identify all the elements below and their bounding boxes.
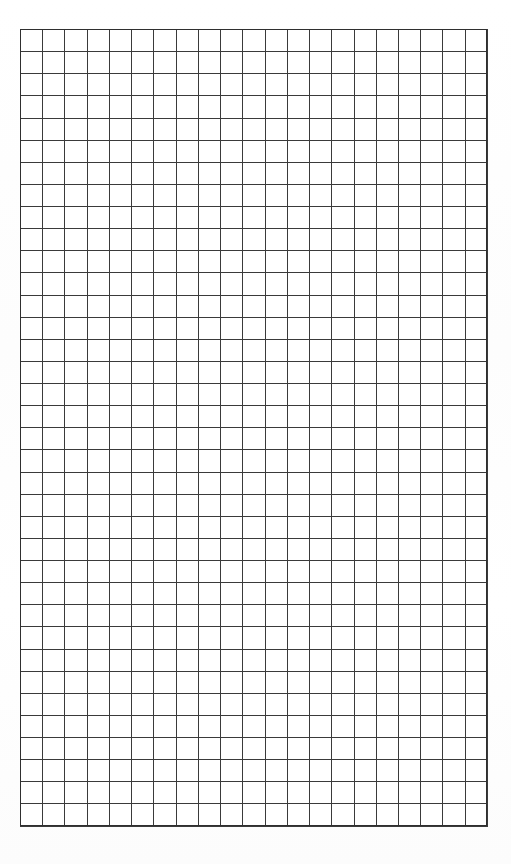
grid-cell[interactable] <box>421 428 443 450</box>
grid-cell[interactable] <box>421 693 443 715</box>
grid-cell[interactable] <box>354 516 376 538</box>
grid-cell[interactable] <box>132 715 154 737</box>
grid-cell[interactable] <box>198 140 220 162</box>
grid-cell[interactable] <box>154 693 176 715</box>
grid-cell[interactable] <box>43 583 65 605</box>
grid-cell[interactable] <box>109 339 131 361</box>
grid-cell[interactable] <box>465 140 487 162</box>
grid-cell[interactable] <box>154 273 176 295</box>
grid-cell[interactable] <box>265 627 287 649</box>
grid-cell[interactable] <box>176 361 198 383</box>
grid-cell[interactable] <box>287 118 309 140</box>
grid-cell[interactable] <box>154 561 176 583</box>
grid-cell[interactable] <box>443 583 465 605</box>
grid-cell[interactable] <box>332 760 354 782</box>
grid-cell[interactable] <box>354 273 376 295</box>
grid-cell[interactable] <box>221 74 243 96</box>
grid-cell[interactable] <box>43 339 65 361</box>
grid-cell[interactable] <box>154 52 176 74</box>
grid-cell[interactable] <box>287 583 309 605</box>
grid-cell[interactable] <box>176 494 198 516</box>
grid-cell[interactable] <box>243 339 265 361</box>
grid-cell[interactable] <box>287 760 309 782</box>
grid-cell[interactable] <box>287 605 309 627</box>
grid-cell[interactable] <box>221 649 243 671</box>
grid-cell[interactable] <box>265 52 287 74</box>
grid-cell[interactable] <box>265 317 287 339</box>
grid-cell[interactable] <box>354 472 376 494</box>
grid-cell[interactable] <box>21 804 43 826</box>
grid-cell[interactable] <box>421 406 443 428</box>
grid-cell[interactable] <box>376 494 398 516</box>
grid-cell[interactable] <box>221 317 243 339</box>
grid-cell[interactable] <box>21 184 43 206</box>
grid-cell[interactable] <box>132 406 154 428</box>
grid-cell[interactable] <box>443 384 465 406</box>
grid-cell[interactable] <box>421 516 443 538</box>
grid-cell[interactable] <box>443 516 465 538</box>
grid-cell[interactable] <box>421 561 443 583</box>
grid-cell[interactable] <box>398 472 420 494</box>
grid-cell[interactable] <box>221 538 243 560</box>
grid-cell[interactable] <box>43 317 65 339</box>
grid-cell[interactable] <box>198 583 220 605</box>
grid-cell[interactable] <box>465 627 487 649</box>
grid-cell[interactable] <box>65 627 87 649</box>
grid-cell[interactable] <box>354 295 376 317</box>
grid-cell[interactable] <box>132 671 154 693</box>
grid-cell[interactable] <box>287 229 309 251</box>
grid-cell[interactable] <box>154 428 176 450</box>
grid-cell[interactable] <box>310 162 332 184</box>
grid-cell[interactable] <box>87 339 109 361</box>
grid-cell[interactable] <box>154 671 176 693</box>
grid-cell[interactable] <box>310 207 332 229</box>
grid-cell[interactable] <box>421 450 443 472</box>
grid-cell[interactable] <box>398 428 420 450</box>
grid-cell[interactable] <box>376 251 398 273</box>
grid-cell[interactable] <box>132 251 154 273</box>
grid-cell[interactable] <box>221 361 243 383</box>
grid-cell[interactable] <box>398 207 420 229</box>
grid-cell[interactable] <box>398 229 420 251</box>
grid-cell[interactable] <box>154 804 176 826</box>
grid-cell[interactable] <box>43 74 65 96</box>
grid-cell[interactable] <box>43 516 65 538</box>
grid-cell[interactable] <box>176 184 198 206</box>
grid-cell[interactable] <box>243 207 265 229</box>
grid-cell[interactable] <box>176 273 198 295</box>
grid-cell[interactable] <box>243 605 265 627</box>
grid-cell[interactable] <box>398 583 420 605</box>
grid-cell[interactable] <box>332 538 354 560</box>
grid-cell[interactable] <box>265 649 287 671</box>
grid-cell[interactable] <box>87 516 109 538</box>
grid-cell[interactable] <box>310 494 332 516</box>
grid-cell[interactable] <box>243 472 265 494</box>
grid-cell[interactable] <box>65 428 87 450</box>
grid-cell[interactable] <box>465 693 487 715</box>
grid-cell[interactable] <box>332 295 354 317</box>
grid-cell[interactable] <box>21 428 43 450</box>
grid-cell[interactable] <box>287 538 309 560</box>
grid-cell[interactable] <box>376 96 398 118</box>
grid-cell[interactable] <box>310 516 332 538</box>
grid-cell[interactable] <box>65 184 87 206</box>
grid-cell[interactable] <box>354 207 376 229</box>
grid-cell[interactable] <box>154 339 176 361</box>
grid-cell[interactable] <box>43 760 65 782</box>
grid-cell[interactable] <box>465 273 487 295</box>
grid-cell[interactable] <box>198 207 220 229</box>
grid-cell[interactable] <box>87 561 109 583</box>
grid-cell[interactable] <box>132 361 154 383</box>
grid-cell[interactable] <box>421 339 443 361</box>
grid-cell[interactable] <box>421 96 443 118</box>
grid-cell[interactable] <box>176 738 198 760</box>
grid-cell[interactable] <box>465 118 487 140</box>
grid-cell[interactable] <box>376 52 398 74</box>
grid-cell[interactable] <box>265 361 287 383</box>
grid-cell[interactable] <box>421 605 443 627</box>
grid-cell[interactable] <box>65 472 87 494</box>
grid-cell[interactable] <box>21 251 43 273</box>
grid-cell[interactable] <box>332 96 354 118</box>
grid-cell[interactable] <box>154 494 176 516</box>
grid-cell[interactable] <box>265 295 287 317</box>
